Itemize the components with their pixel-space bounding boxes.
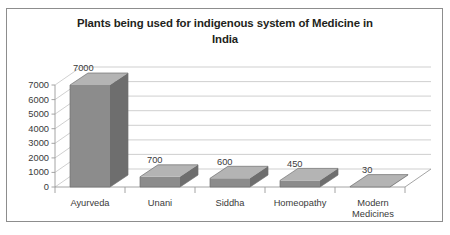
y-tick-label-0: 0 — [5, 182, 49, 192]
y-tick-label-6000: 6000 — [5, 95, 49, 105]
value-label-unani: 700 — [147, 155, 163, 165]
x-axis-ticks — [55, 187, 405, 193]
y-tick-label-5000: 5000 — [5, 109, 49, 119]
bar-ayurveda — [70, 73, 128, 187]
category-label-siddha: Siddha — [190, 198, 270, 209]
value-label-modern-medicines: 30 — [362, 165, 372, 175]
y-tick-label-3000: 3000 — [5, 138, 49, 148]
category-label-modern-medicines: Modern Medicines — [333, 198, 413, 220]
value-label-ayurveda: 7000 — [73, 63, 94, 73]
y-tick-label-4000: 4000 — [5, 124, 49, 134]
category-label-ayurveda: Ayurveda — [50, 198, 130, 209]
bar-unani — [140, 165, 198, 187]
value-label-siddha: 600 — [217, 157, 233, 167]
y-axis-ticks — [52, 85, 56, 187]
bar-homeopathy — [280, 168, 338, 187]
category-label-homeopathy: Homeopathy — [260, 198, 340, 209]
y-tick-label-7000: 7000 — [5, 80, 49, 90]
y-tick-label-1000: 1000 — [5, 167, 49, 177]
y-tick-label-2000: 2000 — [5, 153, 49, 163]
bar-modern-medicines — [350, 175, 408, 187]
chart-frame: Plants being used for indigenous system … — [6, 8, 443, 222]
value-label-homeopathy: 450 — [287, 159, 303, 169]
plot-area: 7000 6000 5000 4000 3000 2000 1000 0 700… — [7, 9, 444, 223]
category-label-unani: Unani — [120, 198, 200, 209]
